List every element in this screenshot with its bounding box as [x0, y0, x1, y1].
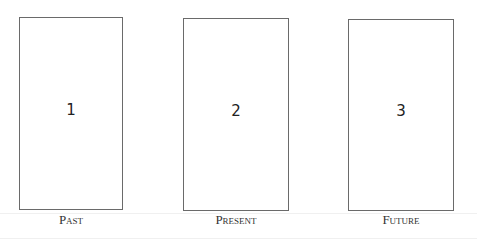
- card-2: 2: [183, 18, 289, 211]
- card-number: 1: [66, 101, 76, 119]
- card-label-future: Future: [341, 212, 461, 228]
- card-label-present: Present: [176, 212, 296, 228]
- card-1: 1: [19, 17, 123, 210]
- card-number: 3: [396, 102, 406, 120]
- card-label-past: Past: [11, 212, 131, 228]
- divider: [0, 238, 477, 239]
- card-3: 3: [348, 19, 454, 211]
- card-number: 2: [231, 102, 241, 120]
